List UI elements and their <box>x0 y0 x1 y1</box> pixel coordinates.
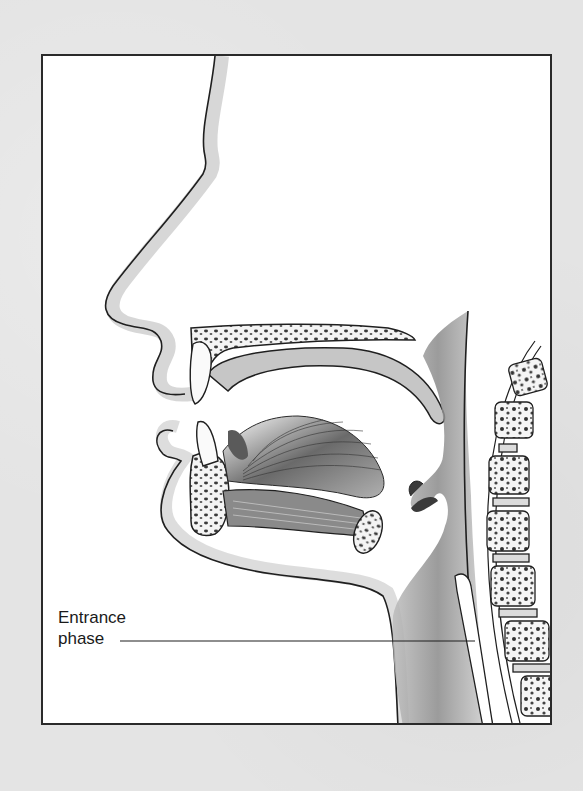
hard-palate <box>190 324 444 423</box>
illustration-frame: Entrance phase <box>41 54 552 725</box>
annotation-label-line2: phase <box>58 628 126 649</box>
spinal-column <box>487 341 552 725</box>
tongue <box>223 416 384 498</box>
annotation-label-line1: Entrance <box>58 607 126 628</box>
mandible <box>190 421 229 535</box>
hyoid-muscle <box>223 490 388 557</box>
annotation-label: Entrance phase <box>58 607 126 649</box>
